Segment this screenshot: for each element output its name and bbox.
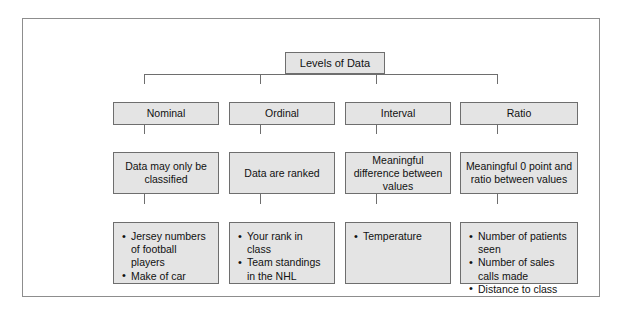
connector-ordinal-definition-to-examples — [260, 193, 261, 204]
connector-interval-definition-to-examples — [376, 193, 377, 204]
connector-drop-nominal — [144, 74, 145, 84]
examples-list-ordinal: Your rank in class Team standings in the… — [238, 230, 328, 283]
connector-ratio-definition-to-examples — [497, 193, 498, 204]
examples-list-ratio: Number of patients seen Number of sales … — [469, 230, 571, 296]
connector-ratio-header-to-definition — [497, 124, 498, 134]
connector-drop-interval — [376, 74, 377, 84]
diagram-title-label: Levels of Data — [296, 57, 374, 70]
definition-box-nominal: Data may only be classified — [113, 152, 219, 194]
definition-box-ratio: Meaningful 0 point and ratio between val… — [460, 152, 578, 194]
column-header-interval: Interval — [345, 102, 451, 125]
column-header-nominal: Nominal — [113, 102, 219, 125]
definition-box-ordinal: Data are ranked — [229, 152, 335, 194]
examples-list-interval: Temperature — [354, 230, 444, 243]
definition-interval-text: Meaningful difference between values — [346, 154, 450, 193]
definition-box-interval: Meaningful difference between values — [345, 152, 451, 194]
examples-box-nominal: Jersey numbers of football players Make … — [113, 222, 219, 284]
connector-drop-ratio — [497, 74, 498, 84]
diagram-title-box: Levels of Data — [285, 52, 385, 74]
examples-list-nominal: Jersey numbers of football players Make … — [122, 230, 212, 283]
definition-ratio-text: Meaningful 0 point and ratio between val… — [461, 160, 577, 186]
connector-distribution-bar — [144, 74, 497, 75]
definition-nominal-text: Data may only be classified — [114, 160, 218, 186]
connector-ordinal-header-to-definition — [260, 124, 261, 134]
examples-box-interval: Temperature — [345, 222, 451, 284]
connector-nominal-header-to-definition — [144, 124, 145, 134]
examples-box-ordinal: Your rank in class Team standings in the… — [229, 222, 335, 284]
connector-interval-header-to-definition — [376, 124, 377, 134]
diagram-frame: Levels of Data Nominal Ordinal Interval … — [22, 18, 600, 297]
column-header-interval-label: Interval — [377, 107, 419, 120]
column-header-ordinal-label: Ordinal — [261, 107, 303, 120]
list-item: Distance to class — [469, 283, 571, 296]
list-item: Number of sales calls made — [469, 256, 571, 282]
list-item: Temperature — [354, 230, 444, 243]
list-item: Jersey numbers of football players — [122, 230, 212, 270]
column-header-ratio-label: Ratio — [503, 107, 536, 120]
list-item: Team standings in the NHL — [238, 256, 328, 282]
list-item: Number of patients seen — [469, 230, 571, 256]
column-header-ratio: Ratio — [460, 102, 578, 125]
list-item: Your rank in class — [238, 230, 328, 256]
column-header-nominal-label: Nominal — [143, 107, 190, 120]
connector-nominal-definition-to-examples — [144, 193, 145, 204]
definition-ordinal-text: Data are ranked — [240, 167, 323, 180]
examples-box-ratio: Number of patients seen Number of sales … — [460, 222, 578, 284]
list-item: Make of car — [122, 270, 212, 283]
column-header-ordinal: Ordinal — [229, 102, 335, 125]
connector-drop-ordinal — [260, 74, 261, 84]
diagram-canvas: Levels of Data Nominal Ordinal Interval … — [0, 0, 624, 313]
